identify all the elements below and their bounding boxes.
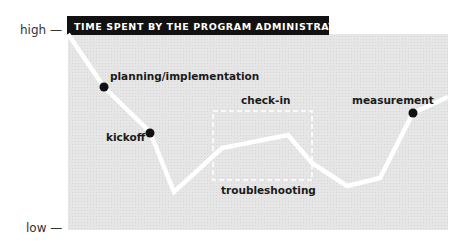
measurement-marker — [409, 109, 418, 118]
kickoff-label: kickoff — [106, 131, 146, 143]
planning-label: planning/implementation — [110, 70, 259, 82]
y-tick-low: low — — [26, 221, 62, 235]
checkin-label: check-in — [241, 94, 290, 106]
time-spent-chart: TIME SPENT BY THE PROGRAM ADMINISTRATOR … — [0, 0, 471, 243]
troubleshooting-label: troubleshooting — [221, 184, 316, 196]
measurement-label: measurement — [352, 94, 434, 106]
kickoff-marker — [146, 129, 155, 138]
y-tick-high: high — — [20, 23, 62, 37]
planning-marker — [100, 83, 109, 92]
chart-title: TIME SPENT BY THE PROGRAM ADMINISTRATOR — [74, 21, 352, 32]
